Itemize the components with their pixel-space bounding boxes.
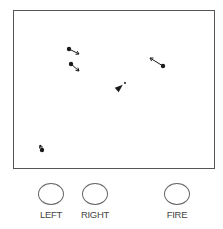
enemy-4 bbox=[40, 148, 44, 152]
fire-button[interactable] bbox=[164, 183, 190, 205]
right-button[interactable] bbox=[82, 183, 108, 205]
bullet bbox=[124, 82, 126, 84]
game-arena bbox=[13, 10, 215, 169]
left-button-label: LEFT bbox=[26, 209, 76, 220]
player-ship-icon bbox=[115, 82, 125, 92]
left-button[interactable] bbox=[38, 183, 64, 205]
enemy-2 bbox=[69, 62, 73, 66]
right-button-label: RIGHT bbox=[70, 209, 120, 220]
enemy-1 bbox=[67, 47, 71, 51]
enemy-direction-line bbox=[150, 58, 163, 66]
enemy-3 bbox=[161, 64, 165, 68]
fire-button-label: FIRE bbox=[152, 209, 202, 220]
